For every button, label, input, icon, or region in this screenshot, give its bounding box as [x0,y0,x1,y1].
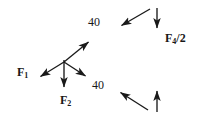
force-fx-divisor: /2 [176,31,185,45]
arrow-down-left-top [122,9,151,26]
force-f2-subscript: 2 [67,99,71,108]
angle-label-middle: 40 [92,79,104,91]
force-vector-diagram: 40 40 F1 F2 F4/2 [0,0,202,129]
force-f1-subscript: 1 [24,71,28,80]
force-label-f2: F2 [60,94,71,106]
arrow-down-right [64,62,86,76]
force-label-fx-half: F4/2 [165,32,186,44]
angle-label-top: 40 [88,16,100,28]
arrow-down-left-f1 [41,62,65,77]
bottom-right-pair-group [121,91,158,112]
arrow-up-left-bottom [121,93,149,111]
force-label-f1: F1 [17,66,28,78]
force-fx-subscript: 4 [172,37,176,46]
top-right-pair-group [122,8,158,28]
central-junction-group [41,42,89,87]
diagram-canvas [0,0,202,129]
arrow-up-right [64,42,89,62]
